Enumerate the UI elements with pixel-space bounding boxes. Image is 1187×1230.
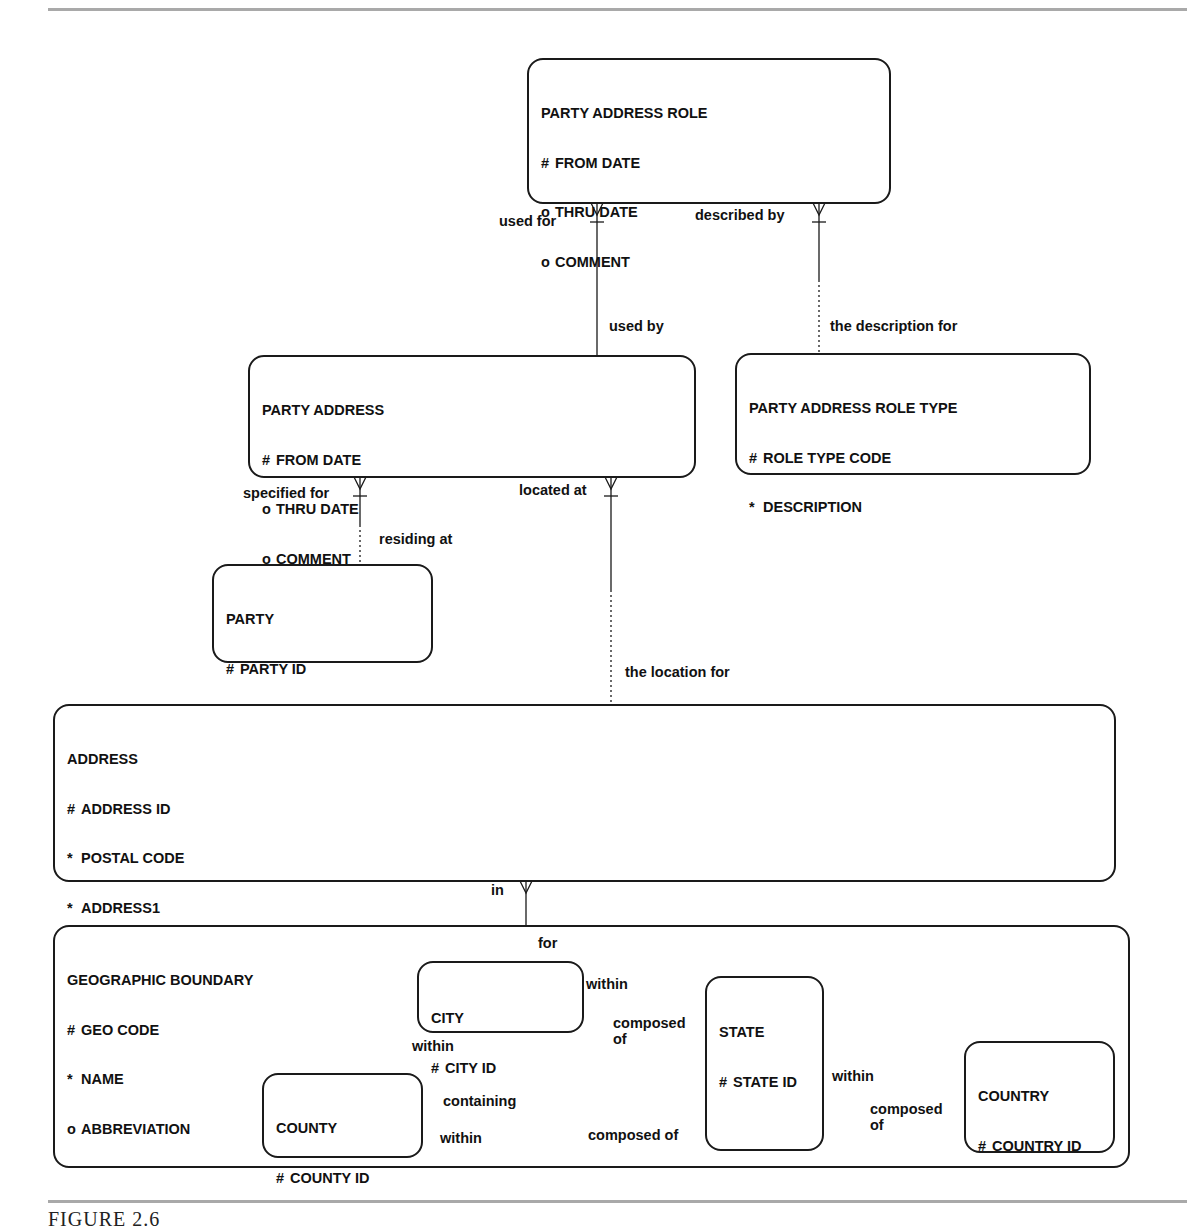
entity-name: PARTY ADDRESS bbox=[262, 402, 384, 419]
entity-country[interactable]: COUNTRY #COUNTRY ID bbox=[964, 1041, 1115, 1153]
attribute: *DESCRIPTION bbox=[749, 499, 957, 516]
label-used-for: used for bbox=[499, 213, 556, 229]
entity-name: GEOGRAPHIC BOUNDARY bbox=[67, 972, 253, 989]
entity-name: CITY bbox=[431, 1010, 496, 1027]
label-county-within-state: within bbox=[440, 1130, 482, 1146]
label-the-location-for: the location for bbox=[625, 664, 730, 680]
label-state-within-country: within bbox=[832, 1068, 874, 1084]
attribute: oCOMMENT bbox=[541, 254, 708, 271]
attribute: oTHRU DATE bbox=[262, 501, 384, 518]
relationship-party-address-address bbox=[604, 477, 618, 705]
attribute: #STATE ID bbox=[719, 1074, 797, 1091]
entity-party-address-role[interactable]: PARTY ADDRESS ROLE #FROM DATE oTHRU DATE… bbox=[527, 58, 891, 204]
relationship-role-role-type bbox=[812, 203, 826, 354]
attribute: oTHRU DATE bbox=[541, 204, 708, 221]
label-state-composed-of-city: composed of bbox=[613, 1015, 703, 1047]
entity-party[interactable]: PARTY #PARTY ID oCREDIT RATING bbox=[212, 564, 433, 663]
label-for: for bbox=[538, 935, 557, 951]
label-described-by: described by bbox=[695, 207, 784, 223]
entity-name: STATE bbox=[719, 1024, 797, 1041]
label-state-composed-of-county: composed of bbox=[588, 1127, 678, 1143]
attribute: *POSTAL CODE bbox=[67, 850, 184, 867]
label-the-description-for: the description for bbox=[830, 318, 957, 334]
attribute: #ROLE TYPE CODE bbox=[749, 450, 957, 467]
attribute: #CITY ID bbox=[431, 1060, 496, 1077]
label-county-containing: containing bbox=[443, 1093, 516, 1109]
entity-name: COUNTY bbox=[276, 1120, 370, 1137]
attribute: #FROM DATE bbox=[262, 452, 384, 469]
attribute: #COUNTRY ID bbox=[978, 1138, 1081, 1155]
label-residing-at: residing at bbox=[379, 531, 452, 547]
attribute: *NAME bbox=[67, 1071, 253, 1088]
attribute: *ADDRESS1 bbox=[67, 900, 184, 917]
label-used-by: used by bbox=[609, 318, 664, 334]
attribute: #PARTY ID bbox=[226, 661, 353, 678]
entity-county[interactable]: COUNTY #COUNTY ID bbox=[262, 1073, 423, 1158]
label-city-within-county: within bbox=[412, 1038, 454, 1054]
label-city-within-state: within bbox=[586, 976, 628, 992]
entity-city[interactable]: CITY #CITY ID bbox=[417, 961, 584, 1033]
label-country-composed-of-state: composed of bbox=[870, 1101, 960, 1133]
entity-party-address[interactable]: PARTY ADDRESS #FROM DATE oTHRU DATE oCOM… bbox=[248, 355, 696, 478]
entity-state[interactable]: STATE #STATE ID bbox=[705, 976, 824, 1151]
entity-name: PARTY bbox=[226, 611, 353, 628]
attribute: oABBREVIATION bbox=[67, 1121, 253, 1138]
entity-name: PARTY ADDRESS ROLE bbox=[541, 105, 708, 122]
label-in: in bbox=[491, 882, 504, 898]
entity-name: COUNTRY bbox=[978, 1088, 1081, 1105]
figure-caption: FIGURE 2.6 bbox=[48, 1208, 160, 1230]
attribute: #ADDRESS ID bbox=[67, 801, 184, 818]
attribute: #GEO CODE bbox=[67, 1022, 253, 1039]
entity-name: PARTY ADDRESS ROLE TYPE bbox=[749, 400, 957, 417]
attribute: #COUNTY ID bbox=[276, 1170, 370, 1187]
entity-address[interactable]: ADDRESS #ADDRESS ID *POSTAL CODE *ADDRES… bbox=[53, 704, 1116, 882]
label-located-at: located at bbox=[519, 482, 587, 498]
entity-name: ADDRESS bbox=[67, 751, 184, 768]
entity-party-address-role-type[interactable]: PARTY ADDRESS ROLE TYPE #ROLE TYPE CODE … bbox=[735, 353, 1091, 475]
attribute: #FROM DATE bbox=[541, 155, 708, 172]
label-specified-for: specified for bbox=[243, 485, 329, 501]
